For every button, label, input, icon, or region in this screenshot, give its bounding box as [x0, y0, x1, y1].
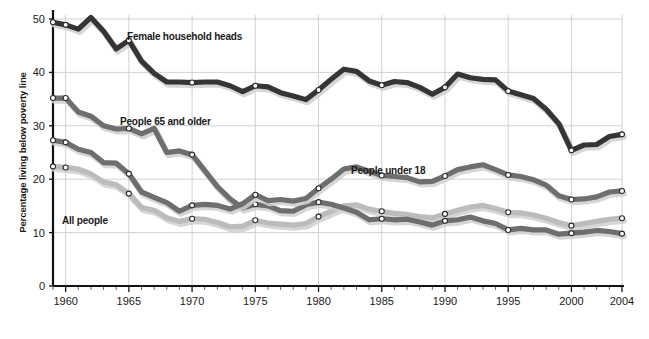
- series-data-point: [569, 231, 574, 236]
- x-tick-label: 1975: [243, 295, 267, 307]
- y-tick-label: 20: [33, 173, 45, 185]
- series-data-point: [63, 22, 68, 27]
- series-data-point: [506, 210, 511, 215]
- series-label: People under 18: [351, 165, 426, 176]
- x-tick-label: 1995: [496, 295, 520, 307]
- x-tick-label: 1985: [370, 295, 394, 307]
- series-data-point: [506, 227, 511, 232]
- series-data-point: [316, 200, 321, 205]
- series-data-point: [620, 132, 625, 137]
- series-data-point: [442, 211, 447, 216]
- series-data-point: [442, 173, 447, 178]
- x-tick-label: 1965: [117, 295, 141, 307]
- series-data-point: [379, 216, 384, 221]
- series-data-point: [620, 231, 625, 236]
- series-data-point: [442, 85, 447, 90]
- x-axis-ticks-group: 1960196519701975198019851990199520002004: [53, 286, 634, 307]
- series-data-point: [51, 138, 56, 143]
- series-data-point: [63, 165, 68, 170]
- series-data-point: [126, 191, 131, 196]
- series-data-point: [569, 148, 574, 153]
- series-data-point: [569, 197, 574, 202]
- series-data-point: [316, 88, 321, 93]
- series-data-point: [190, 216, 195, 221]
- series-data-point: [190, 152, 195, 157]
- series-label: People 65 and older: [120, 116, 211, 127]
- x-tick-label: 1980: [306, 295, 330, 307]
- series-data-point: [51, 20, 56, 25]
- series-data-point: [51, 164, 56, 169]
- series-label: All people: [62, 215, 108, 226]
- x-tick-label: 1970: [180, 295, 204, 307]
- series-data-point: [253, 218, 258, 223]
- series-data-point: [506, 172, 511, 177]
- y-axis-title: Percentage living below poverty line: [17, 72, 28, 233]
- series-data-point: [506, 89, 511, 94]
- series-data-point: [316, 214, 321, 219]
- x-tick-label: 1960: [53, 295, 77, 307]
- series-data-point: [190, 80, 195, 85]
- y-tick-label: 40: [33, 66, 45, 78]
- series-data-point: [569, 223, 574, 228]
- series-data-point: [620, 188, 625, 193]
- y-axis-ticks-group: 01020304050: [33, 13, 53, 292]
- series-data-point: [190, 203, 195, 208]
- series-data-point: [63, 140, 68, 145]
- data-series-group: [51, 17, 625, 236]
- series-data-point: [379, 209, 384, 214]
- chart-svg: 01020304050 1960196519701975198019851990…: [0, 0, 649, 339]
- series-data-point: [51, 96, 56, 101]
- series-data-point: [253, 83, 258, 88]
- series-data-point: [63, 96, 68, 101]
- series-data-point: [126, 171, 131, 176]
- x-tick-label: 2004: [610, 295, 634, 307]
- y-tick-label: 0: [39, 280, 45, 292]
- series-data-point: [253, 192, 258, 197]
- series-data-point: [316, 186, 321, 191]
- series-data-point: [442, 218, 447, 223]
- y-tick-label: 30: [33, 120, 45, 132]
- series-data-point: [379, 83, 384, 88]
- x-tick-label: 2000: [559, 295, 583, 307]
- x-tick-label: 1990: [433, 295, 457, 307]
- series-label: Female household heads: [127, 31, 243, 42]
- y-tick-label: 50: [33, 13, 45, 25]
- series-data-point: [620, 216, 625, 221]
- y-tick-label: 10: [33, 227, 45, 239]
- poverty-rate-chart: 01020304050 1960196519701975198019851990…: [0, 0, 649, 339]
